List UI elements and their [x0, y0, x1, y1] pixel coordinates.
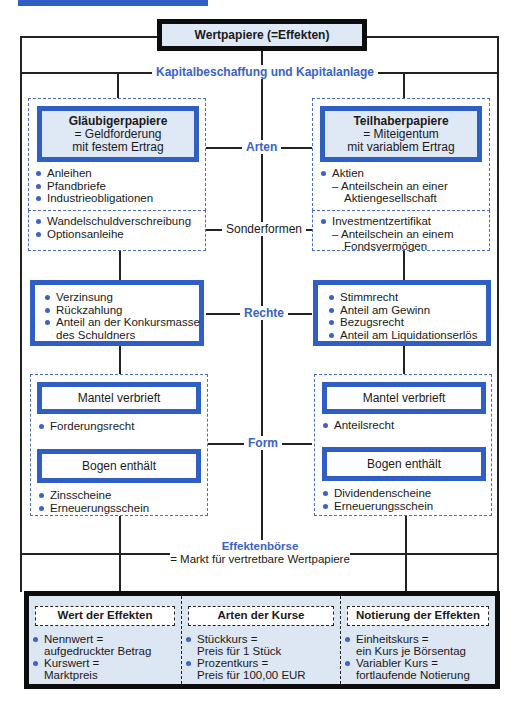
list-item: Stimmrecht	[328, 291, 477, 304]
right-type-line1: = Miteigentum	[325, 128, 477, 141]
list-item: Investmentzertifikat	[320, 215, 453, 228]
list-item-continued: ein Kurs je Börsentag	[344, 645, 470, 657]
list-item: Zinsscheine	[38, 489, 149, 502]
bottom-column-title: Notierung der Effekten	[347, 606, 489, 626]
bottom-column-kurse: Arten der Kurse Stückkurs = Preis für 1 …	[182, 596, 340, 684]
list-item-continued: fortlaufende Notierung	[344, 669, 470, 681]
connector	[119, 250, 121, 280]
label-arten: Arten	[242, 140, 281, 154]
list-item: Bezugsrecht	[328, 316, 477, 329]
bottom-column-list: Stückkurs = Preis für 1 Stück Prozentkur…	[185, 633, 306, 681]
list-item: Dividendenscheine	[322, 487, 433, 500]
left-type-line1: = Geldforderung	[42, 128, 194, 141]
left-mantel-label: Mantel verbrieft	[42, 392, 196, 405]
left-sonder-list: Wandelschuldverschreibung Optionsanleihe	[35, 215, 191, 240]
label-sonderformen: Sonderformen	[222, 222, 306, 236]
connector	[403, 345, 405, 375]
left-bogen-label: Bogen enthält	[42, 460, 196, 473]
list-item-continued: Preis für 1 Stück	[185, 645, 306, 657]
right-mantel-list: Anteilsrecht	[322, 419, 394, 432]
left-bogen-list: Zinsscheine Erneuerungsschein	[38, 489, 149, 514]
connector	[20, 36, 22, 592]
right-arten-list: Aktien – Anteilschein an einer Aktienges…	[320, 167, 448, 205]
connector	[403, 72, 405, 98]
bottom-column-title: Arten der Kurse	[188, 606, 334, 626]
list-item: Nennwert =	[32, 633, 151, 645]
left-mantel-box: Mantel verbrieft	[37, 382, 201, 414]
list-item: Rückzahlung	[44, 304, 200, 317]
list-item-continued: aufgedruckter Betrag	[32, 645, 151, 657]
list-item: Erneuerungsschein	[38, 502, 149, 515]
list-item: Pfandbriefe	[35, 180, 153, 193]
title-text: Wertpapiere (=Effekten)	[195, 28, 330, 42]
title-box: Wertpapiere (=Effekten)	[157, 19, 367, 51]
right-type-title: Teilhaberpapiere	[325, 115, 477, 128]
list-item: Verzinsung	[44, 291, 200, 304]
list-item: Anteil am Liquidationserlös	[328, 329, 477, 342]
connector	[119, 345, 121, 375]
bottom-panel: Wert der Effekten Nennwert = aufgedruckt…	[24, 591, 500, 689]
list-item: Anleihen	[35, 167, 153, 180]
list-item-continued: des Schuldners	[44, 329, 200, 342]
list-subitem: Fondsvermögen	[320, 240, 453, 253]
connector	[117, 72, 119, 98]
list-item: Industrieobligationen	[35, 192, 153, 205]
right-sonder-list: Investmentzertifikat – Anteilschein an e…	[320, 215, 453, 253]
list-item: Anteil an der Konkursmasse	[44, 316, 200, 329]
connector	[261, 51, 263, 541]
connector	[366, 36, 498, 38]
connector	[403, 250, 405, 280]
list-item: Anteilsrecht	[322, 419, 394, 432]
bottom-column-list: Nennwert = aufgedruckter Betrag Kurswert…	[32, 633, 151, 681]
boerse-title: Effektenbörse	[170, 540, 350, 553]
left-mantel-list: Forderungsrecht	[38, 420, 134, 433]
boerse-desc: = Markt für vertretbare Wertpapiere	[170, 553, 350, 566]
label-form: Form	[244, 436, 282, 450]
list-subitem: Aktiengesellschaft	[320, 192, 448, 205]
left-type-line2: mit festem Ertrag	[42, 141, 194, 154]
subtitle-label: Kapitalbeschaffung und Kapitalanlage	[152, 65, 378, 79]
list-item: Prozentkurs =	[185, 657, 306, 669]
right-mantel-label: Mantel verbrieft	[327, 392, 481, 405]
right-bogen-list: Dividendenscheine Erneuerungsschein	[322, 487, 433, 512]
list-item: Einheitskurs =	[344, 633, 470, 645]
glaeubigerpapiere-box: Gläubigerpapiere = Geldforderung mit fes…	[37, 106, 199, 162]
bottom-column-title: Wert der Effekten	[35, 606, 175, 626]
bottom-column-notierung: Notierung der Effekten Einheitskurs = ei…	[341, 596, 495, 684]
connector	[497, 36, 499, 592]
right-rechte-list: Stimmrecht Anteil am Gewinn Bezugsrecht …	[328, 291, 477, 341]
list-subitem: – Anteilschein an einem	[320, 228, 453, 241]
list-item-continued: Marktpreis	[32, 669, 151, 681]
bottom-column-wert: Wert der Effekten Nennwert = aufgedruckt…	[29, 596, 181, 684]
boerse-label: Effektenbörse = Markt für vertretbare We…	[170, 540, 350, 566]
left-type-title: Gläubigerpapiere	[42, 115, 194, 128]
right-bogen-label: Bogen enthält	[327, 458, 481, 471]
list-subitem: – Anteilschein an einer	[320, 180, 448, 193]
list-item: Forderungsrecht	[38, 420, 134, 433]
right-type-line2: mit variablem Ertrag	[325, 141, 477, 154]
teilhaberpapiere-box: Teilhaberpapiere = Miteigentum mit varia…	[320, 106, 482, 162]
left-arten-list: Anleihen Pfandbriefe Industrieobligation…	[35, 167, 153, 205]
bottom-column-list: Einheitskurs = ein Kurs je Börsentag Var…	[344, 633, 470, 681]
right-mantel-box: Mantel verbrieft	[322, 382, 486, 414]
list-item: Erneuerungsschein	[322, 500, 433, 513]
header-banner	[18, 0, 208, 6]
right-bogen-box: Bogen enthält	[322, 447, 486, 481]
connector	[20, 36, 158, 38]
list-item: Optionsanleihe	[35, 228, 191, 241]
label-rechte: Rechte	[240, 306, 288, 320]
list-item: Anteil am Gewinn	[328, 304, 477, 317]
left-rechte-list: Verzinsung Rückzahlung Anteil an der Kon…	[44, 291, 200, 341]
list-item-continued: Preis für 100,00 EUR	[185, 669, 306, 681]
left-bogen-box: Bogen enthält	[37, 449, 201, 483]
list-item: Wandelschuldverschreibung	[35, 215, 191, 228]
list-item: Aktien	[320, 167, 448, 180]
list-item: Stückkurs =	[185, 633, 306, 645]
list-item: Variabler Kurs =	[344, 657, 470, 669]
list-item: Kurswert =	[32, 657, 151, 669]
